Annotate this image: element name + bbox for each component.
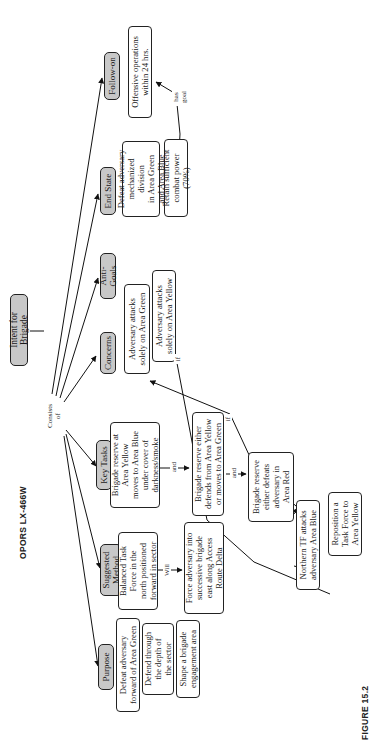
and-link-label-2: and [230,464,238,482]
category-end-state: End State [100,167,116,215]
has-goal-link-label: has goal [172,88,188,106]
suggested-method-result: Force adversary into successive brigade … [184,522,224,614]
key-task-2: Brigade reserve either defends from Area… [192,412,224,516]
key-task-4: Northern TF attacks adversary Area Blue [296,500,320,590]
purpose-item-defend: Defend through the depth of the sector [142,623,174,695]
if-link-label-1: if [224,414,232,424]
concept-map: OPORS LX-466W Intent for Brigade Consist… [0,0,390,754]
key-task-1: Brigade reserve at Area Yellow moves to … [110,422,160,508]
category-concerns: Concerns [100,332,116,374]
if-link-label-2: if [174,354,182,364]
concern-area-yellow: Adversary attacks solely on Area Yellow [152,270,176,362]
follow-on-item: Offensive operations within 24 hrs. [128,26,152,118]
suggested-method-item: Balanced Task Force in the north positio… [118,532,158,610]
key-task-5: Reposition a Task Force to Area Yellow [328,492,362,556]
category-anti-goals: Anti-Goals [100,253,116,299]
end-state-retain: Retain sufficient combat power (70%) [164,139,188,217]
concern-area-green: Adversary attacks solely on Area Green [124,284,150,374]
will-link-label: Will [163,562,171,578]
consists-of-link-label: Consists of [46,401,62,431]
figure-caption: FIGURE 15.2 [360,686,370,740]
purpose-item-shape: Shape a brigade engagement area [176,620,200,698]
end-state-defeat: Defeat adversary mechanized division in … [122,141,160,217]
key-task-3: Brigade reserve either defeats adversary… [248,452,294,522]
and-link-label-1: and [170,458,178,476]
category-follow-on: Follow-on [104,52,120,100]
purpose-item-defeat: Defeat adversary forward of Area Green [116,618,140,712]
root-node: Intent for Brigade [10,294,28,366]
title-label: OPORS LX-466W [18,486,28,559]
category-purpose: Purpose [98,644,114,690]
